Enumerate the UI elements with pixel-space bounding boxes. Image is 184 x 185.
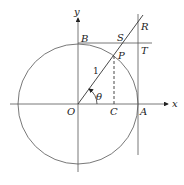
x-axis-label: x (172, 98, 178, 109)
point-a-label: A (139, 106, 147, 117)
point-o-label: O (67, 106, 75, 117)
terminal-ray-or (78, 15, 143, 104)
unit-circle-diagram: y x O A B C P S T R 1 θ (0, 0, 184, 185)
point-b-label: B (80, 33, 88, 44)
radius-label: 1 (93, 66, 99, 76)
point-s-label: S (117, 32, 124, 43)
diagram-canvas: y x O A B C P S T R 1 θ (0, 0, 184, 185)
angle-label: θ (96, 91, 102, 102)
point-c-label: C (110, 106, 118, 117)
point-r-label: R (140, 21, 149, 32)
point-t-label: T (141, 45, 149, 56)
y-axis-label: y (73, 6, 80, 17)
point-p-label: P (117, 50, 125, 61)
